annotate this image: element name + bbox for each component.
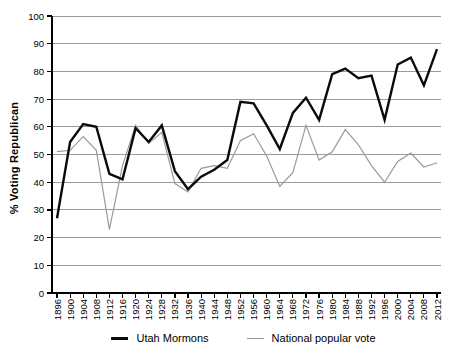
y-tick-label: 20 — [33, 232, 44, 243]
utah-mormons-line-swatch — [111, 337, 128, 340]
x-tick-label: 1964 — [274, 299, 285, 320]
x-tick-label: 1984 — [340, 299, 351, 320]
x-tick-label: 1936 — [183, 299, 194, 320]
x-tick-label: 1904 — [78, 299, 89, 320]
x-tick-label: 1912 — [104, 299, 115, 320]
x-tick-label: 1896 — [52, 299, 63, 320]
y-tick-label: 60 — [33, 121, 44, 132]
x-tick-label: 1988 — [353, 299, 364, 320]
x-tick-label: 1980 — [327, 299, 338, 320]
legend-label-national-popular-vote: National popular vote — [272, 332, 376, 344]
chart-canvas: 0102030405060708090100189619001904190819… — [0, 0, 455, 357]
y-tick-label: 30 — [33, 204, 44, 215]
x-tick-label: 1944 — [209, 299, 220, 320]
x-tick-label: 1932 — [169, 299, 180, 320]
x-tick-label: 1940 — [196, 299, 207, 320]
x-tick-label: 1956 — [248, 299, 259, 320]
x-tick-label: 1960 — [261, 299, 272, 320]
y-tick-label: 0 — [39, 288, 44, 299]
x-tick-label: 1924 — [143, 299, 154, 320]
y-tick-label: 10 — [33, 260, 44, 271]
x-tick-label: 1900 — [65, 299, 76, 320]
x-tick-label: 2012 — [432, 299, 443, 320]
legend-item-national-popular-vote: National popular vote — [247, 332, 376, 344]
x-tick-label: 2004 — [405, 299, 416, 320]
y-tick-label: 40 — [33, 177, 44, 188]
x-tick-label: 1992 — [366, 299, 377, 320]
x-tick-label: 1908 — [91, 299, 102, 320]
x-tick-label: 2000 — [392, 299, 403, 320]
national-popular-vote-line — [57, 125, 437, 229]
x-tick-label: 1952 — [235, 299, 246, 320]
y-tick-label: 50 — [33, 149, 44, 160]
legend-item-utah-mormons: Utah Mormons — [111, 332, 208, 344]
utah-mormons-line — [57, 49, 437, 218]
y-axis-title: % Voting Republican — [8, 102, 20, 214]
x-tick-label: 1928 — [156, 299, 167, 320]
x-tick-label: 1916 — [117, 299, 128, 320]
y-tick-label: 70 — [33, 94, 44, 105]
x-tick-label: 1920 — [130, 299, 141, 320]
x-tick-label: 1972 — [300, 299, 311, 320]
national-popular-vote-line-swatch — [247, 338, 264, 339]
chart-root: 0102030405060708090100189619001904190819… — [0, 0, 455, 357]
x-tick-label: 2008 — [418, 299, 429, 320]
y-tick-label: 90 — [33, 38, 44, 49]
legend-label-utah-mormons: Utah Mormons — [136, 332, 208, 344]
x-tick-label: 1948 — [222, 299, 233, 320]
y-tick-label: 100 — [28, 11, 44, 22]
legend: Utah Mormons National popular vote — [16, 332, 455, 344]
y-tick-label: 80 — [33, 66, 44, 77]
x-tick-label: 1976 — [314, 299, 325, 320]
x-tick-label: 1968 — [287, 299, 298, 320]
x-tick-label: 1996 — [379, 299, 390, 320]
